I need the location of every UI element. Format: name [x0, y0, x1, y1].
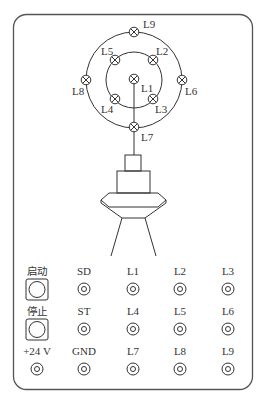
terminal-l1-jack[interactable] — [127, 283, 139, 295]
terminal-st-jack[interactable] — [78, 323, 90, 335]
panel-frame — [14, 15, 253, 390]
terminal-label-l6: L6 — [222, 305, 235, 317]
start-button-label: 启动 — [27, 265, 47, 277]
start-button[interactable] — [26, 279, 48, 300]
lamp-label-l8: L8 — [72, 85, 85, 97]
lamp-l6-icon — [177, 75, 187, 85]
terminal-label-l9: L9 — [222, 345, 235, 357]
lamp-l7-icon — [129, 122, 139, 132]
lamp-control-diagram: L9 L5 L2 L8 L1 L6 L4 L3 L7 启动 SD L1 L2 L… — [0, 0, 265, 401]
terminal-l4-jack[interactable] — [127, 323, 139, 335]
stop-button-label: 停止 — [27, 305, 47, 317]
terminal-l8-jack[interactable] — [174, 363, 186, 375]
terminal-label-l4: L4 — [127, 305, 140, 317]
stop-button[interactable] — [26, 319, 48, 340]
terminal-label-l8: L8 — [174, 345, 187, 357]
terminal-label-sd: SD — [77, 265, 91, 277]
terminal-l3-jack[interactable] — [222, 283, 234, 295]
terminal-sd-jack[interactable] — [78, 283, 90, 295]
lamp-label-l1: L1 — [141, 82, 153, 94]
terminal-label-l1: L1 — [127, 265, 139, 277]
lamp-l8-icon — [81, 75, 91, 85]
lamp-label-l7: L7 — [141, 131, 154, 143]
lamp-l9-icon — [129, 27, 139, 37]
terminal-l2-jack[interactable] — [174, 283, 186, 295]
terminal-label-gnd: GND — [72, 345, 96, 357]
terminal-24v-jack[interactable] — [31, 363, 43, 375]
terminal-label-l7: L7 — [127, 345, 140, 357]
lamp-l1-icon — [129, 74, 139, 84]
lamp-label-l3: L3 — [155, 103, 168, 115]
lamp-label-l2: L2 — [156, 45, 168, 57]
lamp-label-l9: L9 — [143, 18, 156, 30]
spotlight-fixture-icon — [101, 155, 166, 256]
lamp-label-l5: L5 — [101, 45, 114, 57]
terminal-l7-jack[interactable] — [127, 363, 139, 375]
terminal-gnd-jack[interactable] — [78, 363, 90, 375]
lamp-label-l4: L4 — [101, 103, 114, 115]
terminal-label-st: ST — [78, 305, 91, 317]
terminal-l9-jack[interactable] — [222, 363, 234, 375]
terminal-label-l3: L3 — [222, 265, 235, 277]
terminal-label-l5: L5 — [174, 305, 187, 317]
lamp-label-l6: L6 — [185, 85, 198, 97]
terminal-label-24v: +24 V — [23, 345, 51, 357]
terminal-l5-jack[interactable] — [174, 323, 186, 335]
terminal-label-l2: L2 — [174, 265, 186, 277]
terminal-l6-jack[interactable] — [222, 323, 234, 335]
